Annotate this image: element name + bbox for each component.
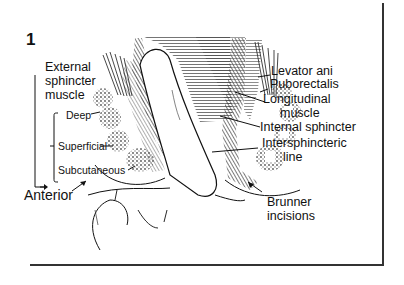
label-longitudinal-line1: Longitudinal [263, 92, 330, 106]
label-superficial: Superficial [58, 140, 107, 152]
label-deep: Deep [66, 109, 91, 121]
label-levator-ani: Levator ani [271, 64, 333, 78]
label-brunner-line2: incisions [267, 209, 315, 223]
label-subcutaneous: Subcutaneous [58, 164, 125, 176]
label-intersphincteric-line2: line [283, 150, 302, 164]
label-anterior: Anterior [24, 187, 73, 203]
label-external-line1: External [45, 60, 91, 74]
label-puborectalis: Puborectalis [270, 77, 339, 91]
label-longitudinal-line2: muscle [280, 106, 320, 120]
label-external-line3: muscle [45, 88, 85, 102]
label-brunner-line1: Brunner [267, 195, 311, 209]
label-internal-sphincter: Internal sphincter [260, 120, 356, 134]
label-external-line2: sphincter [45, 74, 96, 88]
label-intersphincteric-line1: Intersphincteric [262, 136, 347, 150]
